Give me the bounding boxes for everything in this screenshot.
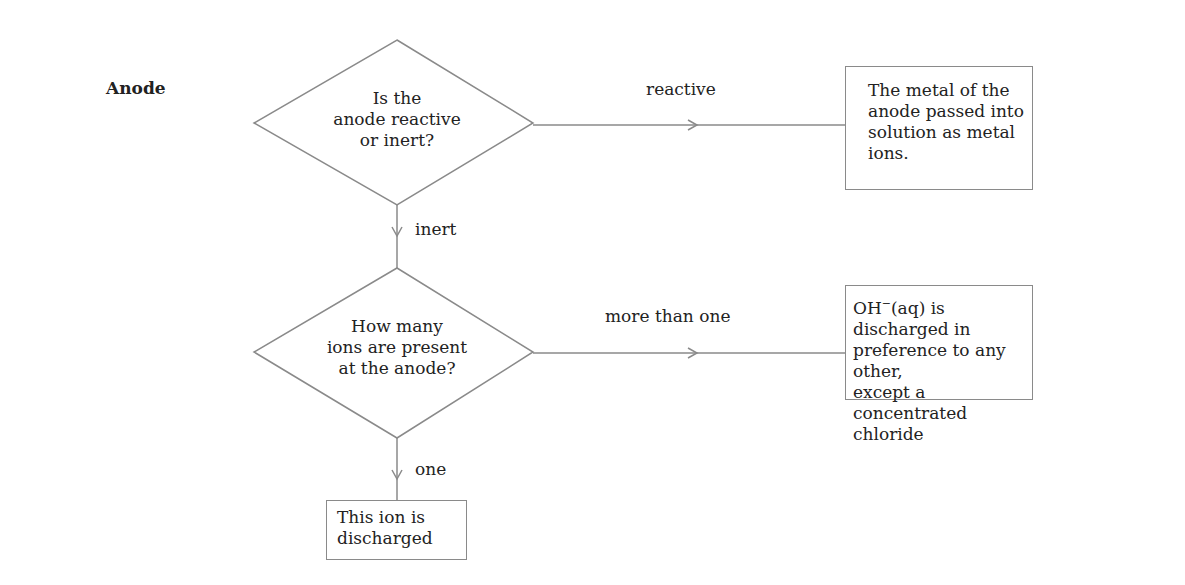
outcome-box-more-than-one: OH−(aq) is discharged in preference to a… xyxy=(845,285,1033,400)
decision-1-line-3: or inert? xyxy=(254,130,540,151)
edge-label-more-than-one: more than one xyxy=(605,306,730,327)
outcome-box-one: This ion is discharged xyxy=(326,500,467,560)
outcome-more-than-one-text: OH−(aq) is discharged in preference to a… xyxy=(853,298,1032,445)
section-label-anode: Anode xyxy=(106,78,166,99)
outcome-more-than-one-rest: (aq) is discharged in preference to any … xyxy=(853,298,1006,444)
outcome-box-reactive: The metal of the anode passed into solut… xyxy=(845,66,1033,190)
decision-2-line-3: at the anode? xyxy=(254,358,540,379)
decision-1-line-1: Is the xyxy=(254,88,540,109)
outcome-one-text: This ion is discharged xyxy=(337,507,466,549)
edge-label-reactive: reactive xyxy=(646,79,716,100)
oh-formula: OH xyxy=(853,298,882,318)
edge-label-inert: inert xyxy=(415,219,456,240)
decision-2-line-1: How many xyxy=(254,316,540,337)
edge-label-one: one xyxy=(415,459,446,480)
decision-2-text: How many ions are present at the anode? xyxy=(254,316,540,379)
charge-superscript: − xyxy=(882,297,891,310)
outcome-reactive-text: The metal of the anode passed into solut… xyxy=(868,80,1032,164)
decision-2-line-2: ions are present xyxy=(254,337,540,358)
decision-1-text: Is the anode reactive or inert? xyxy=(254,88,540,151)
decision-1-line-2: anode reactive xyxy=(254,109,540,130)
